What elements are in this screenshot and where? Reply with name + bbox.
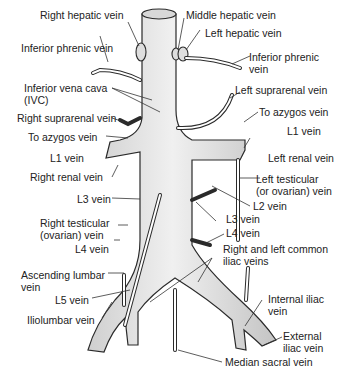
label-to-azygos-right: To azygos vein	[28, 131, 97, 143]
label-common-iliac-veins: Right and left common iliac veins	[223, 243, 328, 267]
label-l4-vein-right: L4 vein	[75, 243, 109, 255]
label-median-sacral-vein: Median sacral vein	[225, 356, 313, 368]
label-right-testicular-vein: Right testicular (ovarian) vein	[40, 217, 109, 241]
label-l4-vein-left: L4 vein	[226, 227, 260, 239]
label-right-hepatic-vein: Right hepatic vein	[40, 9, 123, 21]
label-internal-iliac-vein: Internal iliac vein	[268, 293, 324, 317]
label-right-suprarenal-vein: Right suprarenal vein	[17, 112, 116, 124]
right-suprarenal-branch	[120, 118, 140, 124]
label-ivc: Inferior vena cava (IVC)	[24, 82, 107, 106]
ivc-diagram: Right hepatic vein Middle hepatic vein L…	[0, 0, 345, 376]
label-left-renal-vein: Left renal vein	[268, 152, 334, 164]
label-left-testicular-vein: Left testicular (or ovarian) vein	[256, 173, 332, 197]
label-l2-vein: L2 vein	[253, 200, 287, 212]
label-l1-vein-right: L1 vein	[50, 152, 84, 164]
label-ascending-lumbar-vein: Ascending lumbar vein	[21, 269, 105, 293]
ivc-top-opening	[142, 9, 176, 19]
label-middle-hepatic-vein: Middle hepatic vein	[186, 9, 276, 21]
label-left-suprarenal-vein: Left suprarenal vein	[235, 84, 327, 96]
label-left-hepatic-vein: Left hepatic vein	[205, 27, 281, 39]
ivc-trunk	[88, 14, 276, 352]
label-right-renal-vein: Right renal vein	[30, 171, 103, 183]
label-l5-vein: L5 vein	[55, 294, 89, 306]
right-hepatic-vein-shape	[136, 43, 146, 61]
label-to-azygos-left: To azygos vein	[259, 106, 328, 118]
label-l3-vein-left: L3 vein	[226, 213, 260, 225]
label-external-iliac-vein: External iliac vein	[283, 330, 323, 354]
label-l3-vein-right: L3 vein	[77, 193, 111, 205]
label-iliolumbar-vein: Iliolumbar vein	[27, 314, 95, 326]
label-l1-vein-left: L1 vein	[287, 125, 321, 137]
label-inferior-phrenic-vein-left: Inferior phrenic vein	[249, 51, 319, 75]
label-inferior-phrenic-vein-right: Inferior phrenic vein	[21, 42, 113, 54]
l3-left-branch	[192, 190, 215, 200]
